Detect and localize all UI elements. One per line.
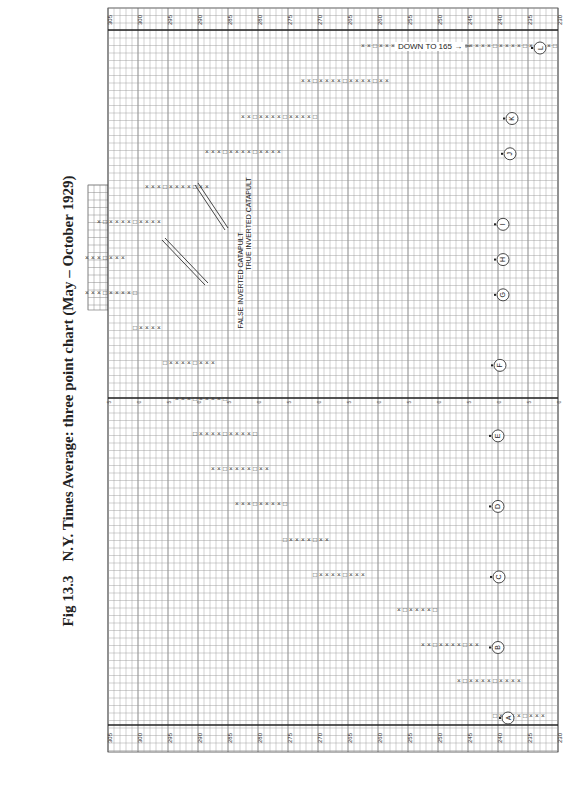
svg-text:×: ×	[331, 77, 335, 84]
svg-text:5: 5	[346, 400, 352, 403]
svg-text:×: ×	[367, 77, 371, 84]
price-axis-label: 250	[437, 14, 443, 25]
svg-text:×: ×	[97, 289, 101, 296]
svg-text:□: □	[493, 712, 497, 719]
price-axis-label: 280	[257, 732, 263, 743]
svg-text:×: ×	[211, 430, 215, 437]
svg-text:×: ×	[151, 183, 155, 190]
svg-text:×: ×	[517, 677, 521, 684]
svg-text:×: ×	[307, 77, 311, 84]
price-axis-label: 240	[497, 732, 503, 743]
price-axis-label: 260	[377, 14, 383, 25]
svg-text:0: 0	[256, 400, 262, 403]
svg-text:□: □	[163, 183, 167, 190]
price-axis-label: 270	[317, 732, 323, 743]
svg-text:×: ×	[361, 77, 365, 84]
svg-text:×: ×	[427, 606, 431, 613]
price-axis-label: 230	[557, 732, 563, 743]
svg-text:×: ×	[535, 712, 539, 719]
svg-text:×: ×	[361, 571, 365, 578]
svg-text:×: ×	[211, 148, 215, 155]
svg-text:□: □	[493, 677, 497, 684]
svg-text:□: □	[373, 77, 377, 84]
svg-text:×: ×	[181, 359, 185, 366]
svg-text:×: ×	[487, 677, 491, 684]
svg-text:×: ×	[205, 359, 209, 366]
svg-text:□: □	[463, 677, 467, 684]
svg-text:×: ×	[325, 77, 329, 84]
svg-text:×: ×	[205, 148, 209, 155]
false-catapult-label: FALSE INVERTED CATAPULT	[236, 273, 245, 329]
svg-text:×: ×	[205, 395, 209, 402]
svg-text:×: ×	[349, 77, 353, 84]
svg-text:□: □	[283, 500, 287, 507]
svg-text:□: □	[283, 536, 287, 543]
price-axis-label: 305	[107, 732, 113, 743]
svg-text:×: ×	[469, 677, 473, 684]
svg-text:□: □	[373, 42, 377, 49]
svg-text:5: 5	[286, 400, 292, 403]
price-axis-label: 255	[407, 14, 413, 25]
svg-text:□: □	[343, 77, 347, 84]
svg-text:×: ×	[175, 395, 179, 402]
svg-text:×: ×	[289, 536, 293, 543]
svg-text:×: ×	[217, 430, 221, 437]
svg-text:×: ×	[517, 712, 521, 719]
svg-text:×: ×	[199, 430, 203, 437]
svg-text:×: ×	[121, 218, 125, 225]
svg-text:×: ×	[481, 42, 485, 49]
svg-text:×: ×	[259, 113, 263, 120]
svg-text:□: □	[223, 148, 227, 155]
svg-text:×: ×	[505, 42, 509, 49]
svg-text:E: E	[495, 433, 502, 438]
svg-text:A: A	[505, 715, 512, 720]
svg-text:×: ×	[499, 42, 503, 49]
true-catapult-label: TRUE INVERTED CATAPULT	[244, 215, 253, 271]
svg-text:□: □	[523, 712, 527, 719]
svg-text:□: □	[313, 113, 317, 120]
svg-text:×: ×	[415, 606, 419, 613]
svg-text:×: ×	[529, 712, 533, 719]
svg-text:×: ×	[421, 606, 425, 613]
svg-text:×: ×	[361, 42, 365, 49]
svg-text:×: ×	[295, 113, 299, 120]
price-axis-label: 235	[527, 14, 533, 25]
svg-text:×: ×	[307, 536, 311, 543]
svg-text:×: ×	[475, 641, 479, 648]
svg-text:×: ×	[235, 148, 239, 155]
svg-text:×: ×	[469, 641, 473, 648]
svg-text:G: G	[500, 292, 507, 297]
svg-text:×: ×	[397, 606, 401, 613]
svg-text:×: ×	[505, 677, 509, 684]
svg-text:×: ×	[451, 641, 455, 648]
svg-text:×: ×	[355, 571, 359, 578]
down-to-label: DOWN TO 165 →	[395, 42, 465, 51]
svg-text:×: ×	[421, 641, 425, 648]
price-axis-label: 270	[317, 14, 323, 25]
svg-text:×: ×	[247, 465, 251, 472]
svg-text:×: ×	[217, 395, 221, 402]
svg-text:×: ×	[97, 254, 101, 261]
svg-text:×: ×	[445, 641, 449, 648]
price-axis-label: 290	[197, 732, 203, 743]
svg-text:×: ×	[325, 536, 329, 543]
svg-text:5: 5	[466, 400, 472, 403]
svg-text:□: □	[193, 430, 197, 437]
price-axis-label: 280	[257, 14, 263, 25]
svg-text:×: ×	[367, 42, 371, 49]
svg-text:×: ×	[469, 42, 473, 49]
svg-text:□: □	[223, 430, 227, 437]
price-axis-label: 245	[467, 14, 473, 25]
svg-text:×: ×	[91, 254, 95, 261]
svg-text:0: 0	[376, 400, 382, 403]
svg-text:×: ×	[181, 183, 185, 190]
svg-text:×: ×	[277, 113, 281, 120]
price-axis-label: 265	[347, 14, 353, 25]
svg-text:×: ×	[175, 183, 179, 190]
svg-text:×: ×	[241, 500, 245, 507]
point-figure-chart: 3053053003002952952902902852852802802752…	[0, 0, 570, 802]
svg-text:×: ×	[319, 77, 323, 84]
svg-text:×: ×	[271, 113, 275, 120]
svg-text:×: ×	[337, 77, 341, 84]
svg-text:×: ×	[139, 218, 143, 225]
